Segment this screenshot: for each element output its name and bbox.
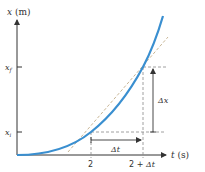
position-time-diagram: x (m) t (s) xf xi Δt Δx 2 2 + Δt [0,0,205,172]
delta-t-label: Δt [110,145,121,154]
y-axis-label: x (m) [7,7,31,17]
label-xf: xf [5,63,13,74]
delta-x-label: Δx [157,96,169,105]
label-t1: 2 + Δt [129,160,156,169]
position-curve [17,16,163,155]
label-xi: xi [5,128,12,138]
label-t0: 2 [88,160,93,169]
x-axis-label: t (s) [171,150,189,160]
